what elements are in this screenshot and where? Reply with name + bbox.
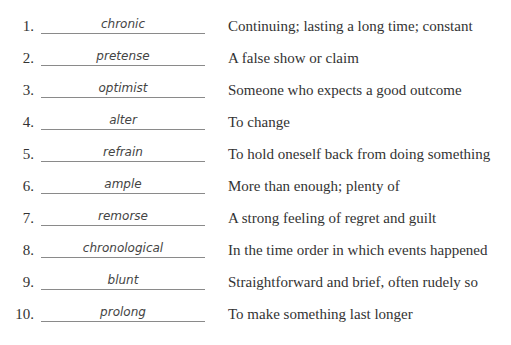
answer-text: refrain [103, 145, 143, 159]
answer-text: prolong [100, 305, 146, 319]
answer-blank[interactable]: refrain [41, 142, 205, 162]
answer-text: optimist [99, 81, 148, 95]
definition: In the time order in which events happen… [228, 242, 488, 259]
item-number: 5. [23, 146, 34, 163]
list-item: 10. prolong To make something last longe… [0, 298, 511, 330]
item-number: 7. [23, 210, 34, 227]
item-number: 6. [23, 178, 34, 195]
answer-text: chronic [101, 17, 145, 31]
answer-blank[interactable]: blunt [41, 270, 205, 290]
definition: Continuing; lasting a long time; constan… [228, 18, 473, 35]
definition: More than enough; plenty of [228, 178, 400, 195]
answer-blank[interactable]: ample [41, 174, 205, 194]
answer-text: chronological [83, 241, 163, 255]
list-item: 8. chronological In the time order in wh… [0, 234, 511, 266]
list-item: 1. chronic Continuing; lasting a long ti… [0, 10, 511, 42]
item-number: 4. [23, 114, 34, 131]
definition: A strong feeling of regret and guilt [228, 210, 436, 227]
item-number: 9. [23, 274, 34, 291]
list-item: 3. optimist Someone who expects a good o… [0, 74, 511, 106]
definition: Someone who expects a good outcome [228, 82, 462, 99]
answer-blank[interactable]: prolong [41, 302, 205, 322]
item-number: 10. [15, 306, 34, 323]
definition: To make something last longer [228, 306, 413, 323]
answer-blank[interactable]: remorse [41, 206, 205, 226]
list-item: 4. alter To change [0, 106, 511, 138]
definition: A false show or claim [228, 50, 359, 67]
list-item: 2. pretense A false show or claim [0, 42, 511, 74]
item-number: 8. [23, 242, 34, 259]
answer-text: blunt [108, 273, 139, 287]
answer-blank[interactable]: alter [41, 110, 205, 130]
item-number: 1. [23, 18, 34, 35]
answer-blank[interactable]: chronic [41, 14, 205, 34]
answer-blank[interactable]: pretense [41, 46, 205, 66]
list-item: 7. remorse A strong feeling of regret an… [0, 202, 511, 234]
definition: To change [228, 114, 290, 131]
item-number: 3. [23, 82, 34, 99]
answer-blank[interactable]: chronological [41, 238, 205, 258]
answer-text: remorse [98, 209, 148, 223]
definition: To hold oneself back from doing somethin… [228, 146, 490, 163]
answer-blank[interactable]: optimist [41, 78, 205, 98]
definition: Straightforward and brief, often rudely … [228, 274, 478, 291]
item-number: 2. [23, 50, 34, 67]
list-item: 6. ample More than enough; plenty of [0, 170, 511, 202]
answer-text: pretense [96, 49, 149, 63]
answer-text: ample [104, 177, 141, 191]
list-item: 9. blunt Straightforward and brief, ofte… [0, 266, 511, 298]
list-item: 5. refrain To hold oneself back from doi… [0, 138, 511, 170]
answer-text: alter [109, 113, 137, 127]
